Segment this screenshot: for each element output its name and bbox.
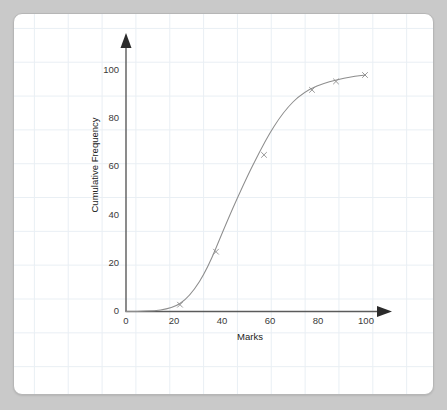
y-tick-label-100: 100 xyxy=(103,64,119,75)
y-tick-label-40: 40 xyxy=(108,209,119,220)
x-tick-label-40: 40 xyxy=(217,315,228,326)
x-tick-label-60: 60 xyxy=(265,315,276,326)
cumulative-frequency-curve xyxy=(126,75,366,312)
x-tick-label-20: 20 xyxy=(169,315,180,326)
data-point-marker xyxy=(261,152,267,158)
data-point-markers xyxy=(177,72,368,307)
x-tick-label-80: 80 xyxy=(313,315,324,326)
screenshot-root: 0 20 40 60 80 100 0 20 40 60 80 100 Mark… xyxy=(0,0,447,410)
x-axis-title: Marks xyxy=(237,331,263,342)
y-tick-label-0: 0 xyxy=(114,305,119,316)
y-axis-arrow-icon xyxy=(121,33,132,48)
y-tick-label-80: 80 xyxy=(108,112,119,123)
y-tick-label-60: 60 xyxy=(108,160,119,171)
y-axis-title: Cumulative Frequency xyxy=(89,117,100,212)
x-axis-arrow-icon xyxy=(377,306,392,317)
cumulative-frequency-chart: 0 20 40 60 80 100 0 20 40 60 80 100 Mark… xyxy=(0,0,447,410)
y-tick-label-20: 20 xyxy=(108,257,119,268)
x-tick-label-100: 100 xyxy=(358,315,374,326)
x-tick-label-0: 0 xyxy=(123,315,128,326)
